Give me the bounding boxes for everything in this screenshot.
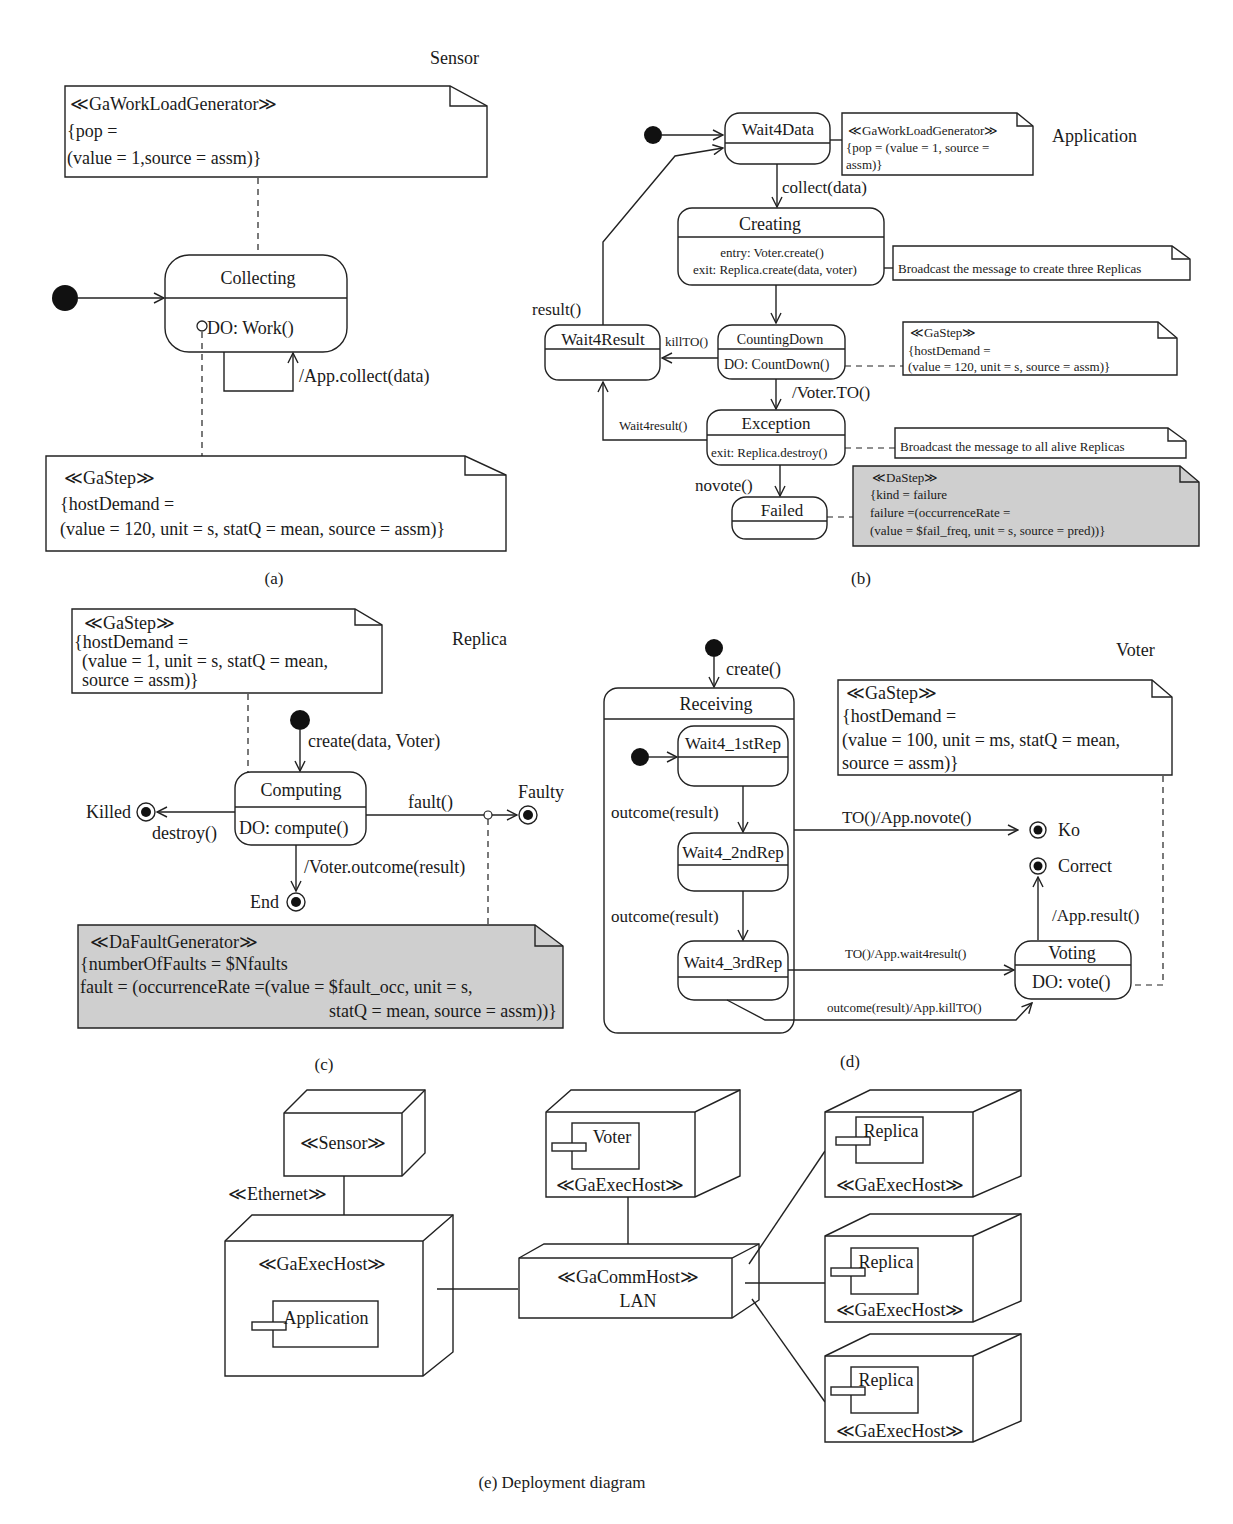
state-countingdown: CountingDown DO: CountDown() (718, 325, 845, 379)
svg-text:(value = 1,source = assm)}: (value = 1,source = assm)} (67, 148, 261, 169)
svg-text:Wait4_2ndRep: Wait4_2ndRep (682, 843, 784, 862)
node-replica-host-2: Replica ≪GaExecHost≫ (825, 1214, 1021, 1322)
final-state-faulty-icon (519, 806, 537, 824)
svg-text:Wait4Result: Wait4Result (561, 330, 645, 349)
svg-text:(value = 120, unit = s, source: (value = 120, unit = s, source = assm)} (908, 359, 1110, 374)
state-wait4result: Wait4Result (545, 325, 660, 380)
svg-text:create(): create() (726, 659, 781, 680)
svg-text:≪GaExecHost≫: ≪GaExecHost≫ (836, 1421, 965, 1441)
panel-e-caption: (e) Deployment diagram (478, 1473, 645, 1492)
svg-text:(value = 120, unit = s, statQ: (value = 120, unit = s, statQ = mean, so… (60, 519, 445, 540)
svg-text:Wait4Data: Wait4Data (742, 120, 815, 139)
svg-text:≪GaStep≫: ≪GaStep≫ (84, 613, 175, 633)
svg-text:{numberOfFaults = $Nfaults: {numberOfFaults = $Nfaults (80, 954, 288, 974)
state-wait4-2ndrep: Wait4_2ndRep (678, 833, 788, 891)
panel-d-voter: Voter create() Receiving Wait4_1stRep ou… (604, 639, 1172, 1071)
svg-text:Application: Application (284, 1308, 369, 1328)
svg-text:exit: Replica.create(data, vot: exit: Replica.create(data, voter) (693, 262, 857, 277)
panel-b-application: Application Wait4Data ≪GaWorkLoadGenerat… (532, 113, 1199, 588)
state-wait4data: Wait4Data (725, 113, 830, 164)
svg-text:source = assm)}: source = assm)} (82, 670, 199, 691)
svg-text:Correct: Correct (1058, 856, 1112, 876)
panel-a-caption: (a) (265, 569, 284, 588)
svg-text:/App.collect(data): /App.collect(data) (299, 366, 429, 387)
note-dastep: ≪DaStep≫ {kind = failure failure =(occur… (853, 466, 1199, 546)
svg-text:(value = 1, unit = s, statQ =: (value = 1, unit = s, statQ = mean, (82, 651, 328, 672)
svg-text:{hostDemand =: {hostDemand = (908, 343, 991, 358)
node-lan-comm-host: ≪GaCommHost≫ LAN (519, 1244, 759, 1318)
svg-text:destroy(): destroy() (152, 823, 217, 844)
note-gastep: ≪GaStep≫ {hostDemand = (value = 100, uni… (838, 680, 1172, 775)
svg-text:novote(): novote() (695, 476, 753, 495)
initial-state-icon (290, 710, 310, 730)
note-gastep: ≪GaStep≫ {hostDemand = (value = 120, uni… (46, 456, 506, 551)
svg-text:{hostDemand =: {hostDemand = (842, 706, 956, 726)
svg-text:{hostDemand =: {hostDemand = (74, 632, 188, 652)
svg-text:failure =(occurrenceRate =: failure =(occurrenceRate = (870, 505, 1010, 520)
fault-anchor-icon (484, 811, 492, 819)
svg-text:Failed: Failed (761, 501, 804, 520)
state-failed: Failed (732, 497, 827, 539)
activity-anchor-icon (197, 321, 207, 331)
svg-text:≪GaExecHost≫: ≪GaExecHost≫ (836, 1300, 965, 1320)
svg-text:assm)}: assm)} (846, 157, 883, 172)
svg-text:/Voter.TO(): /Voter.TO() (792, 383, 870, 402)
state-creating: Creating entry: Voter.create() exit: Rep… (678, 208, 884, 285)
svg-text:≪GaWorkLoadGenerator≫: ≪GaWorkLoadGenerator≫ (848, 123, 998, 138)
svg-text:result(): result() (532, 300, 581, 319)
svg-text:≪GaExecHost≫: ≪GaExecHost≫ (836, 1175, 965, 1195)
note-workload-generator: ≪GaWorkLoadGenerator≫ {pop = (value = 1,… (65, 86, 487, 177)
svg-text:fault = (occurrenceRate =(valu: fault = (occurrenceRate =(value = $fault… (80, 977, 472, 998)
svg-text:Voter: Voter (593, 1127, 632, 1147)
panel-a-title: Sensor (430, 48, 479, 68)
panel-e-deployment: ≪Sensor≫ ≪Ethernet≫ ≪GaExecHost≫ Applica… (225, 1090, 1021, 1492)
svg-text:≪Ethernet≫: ≪Ethernet≫ (228, 1184, 327, 1204)
initial-state-icon (644, 126, 662, 144)
svg-text:{pop =: {pop = (67, 121, 117, 141)
panel-d-title: Voter (1116, 640, 1155, 660)
state-voting: Voting DO: vote() (1015, 941, 1131, 999)
svg-text:≪GaWorkLoadGenerator≫: ≪GaWorkLoadGenerator≫ (70, 94, 277, 114)
svg-text:Ko: Ko (1058, 820, 1080, 840)
note-fault-generator: ≪DaFaultGenerator≫ {numberOfFaults = $Nf… (78, 925, 563, 1028)
svg-text:LAN: LAN (620, 1291, 657, 1311)
svg-text:Broadcast the message to all a: Broadcast the message to all alive Repli… (900, 439, 1125, 454)
svg-text:≪GaStep≫: ≪GaStep≫ (910, 325, 976, 340)
svg-text:/App.result(): /App.result() (1052, 906, 1139, 925)
svg-text:Creating: Creating (739, 214, 801, 234)
svg-text:Exception: Exception (742, 414, 811, 433)
state-computing: Computing DO: compute() (235, 772, 366, 845)
svg-text:≪GaExecHost≫: ≪GaExecHost≫ (258, 1254, 387, 1274)
state-wait4-1strep: Wait4_1stRep (678, 726, 788, 786)
svg-text:source = assm)}: source = assm)} (842, 753, 959, 774)
svg-text:≪Sensor≫: ≪Sensor≫ (300, 1133, 387, 1153)
svg-text:Replica: Replica (859, 1370, 914, 1390)
initial-state-icon (705, 639, 723, 657)
svg-text:Wait4result(): Wait4result() (619, 418, 687, 433)
node-sensor: ≪Sensor≫ (284, 1090, 425, 1176)
svg-text:≪DaFaultGenerator≫: ≪DaFaultGenerator≫ (90, 932, 258, 952)
svg-text:outcome(result): outcome(result) (611, 907, 719, 926)
component-icon (252, 1322, 286, 1330)
svg-text:≪DaStep≫: ≪DaStep≫ (872, 470, 938, 485)
svg-text:DO: compute(): DO: compute() (239, 818, 348, 839)
svg-text:Wait4_3rdRep: Wait4_3rdRep (684, 953, 783, 972)
svg-text:{hostDemand =: {hostDemand = (60, 494, 174, 514)
svg-text:{kind = failure: {kind = failure (870, 487, 947, 502)
state-exception: Exception exit: Replica.destroy() (707, 410, 845, 465)
state-wait4-3rdrep: Wait4_3rdRep (678, 941, 788, 1000)
note-gastep: ≪GaStep≫ {hostDemand = (value = 120, uni… (903, 322, 1177, 375)
panel-b-caption: (b) (851, 569, 871, 588)
svg-text:Replica: Replica (859, 1252, 914, 1272)
svg-text:Broadcast the message to creat: Broadcast the message to create three Re… (898, 261, 1141, 276)
figure-canvas: Sensor ≪GaWorkLoadGenerator≫ {pop = (val… (0, 0, 1233, 1524)
svg-text:entry: Voter.create(): entry: Voter.create() (720, 245, 823, 260)
svg-text:≪GaStep≫: ≪GaStep≫ (64, 468, 155, 488)
svg-text:≪GaCommHost≫: ≪GaCommHost≫ (557, 1267, 699, 1287)
svg-text:(value = 100, unit = ms, statQ: (value = 100, unit = ms, statQ = mean, (842, 730, 1120, 751)
svg-text:collect(data): collect(data) (782, 178, 867, 197)
final-state-killed-icon (137, 803, 155, 821)
svg-text:DO: CountDown(): DO: CountDown() (724, 357, 830, 373)
node-application-host: ≪GaExecHost≫ Application (225, 1215, 453, 1376)
panel-d-caption: (d) (840, 1052, 860, 1071)
